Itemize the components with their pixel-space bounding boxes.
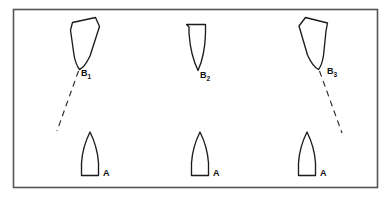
ship-a2: [192, 132, 209, 176]
diagram-canvas: B1 B2 B3 A A A: [0, 0, 389, 199]
ship-b1: [71, 18, 100, 70]
ship-hull-b1: [71, 18, 100, 70]
ship-a3: [299, 132, 316, 176]
dashed-track-b1: [57, 71, 79, 131]
dashed-track-b3: [320, 71, 343, 133]
ship-b2: [187, 25, 206, 71]
ship-label-b3: B3: [327, 66, 338, 78]
ship-encounter-diagram: B1 B2 B3 A A A: [0, 0, 389, 199]
ship-hull-b3: [299, 18, 328, 70]
ship-label-a1: A: [103, 168, 110, 178]
ship-hull-a1: [82, 132, 99, 176]
ship-label-a2: A: [213, 168, 220, 178]
ship-hull-a3: [299, 132, 316, 176]
ship-label-a3: A: [320, 168, 327, 178]
ship-label-b1: B1: [81, 68, 92, 80]
ship-a1: [82, 132, 99, 176]
ship-b3: [299, 18, 328, 70]
ship-label-b1-sub: 1: [88, 73, 92, 80]
ship-label-b3-sub: 3: [334, 71, 338, 78]
ship-hull-b2: [187, 25, 206, 71]
ship-label-b2: B2: [200, 70, 211, 82]
ship-label-b2-sub: 2: [207, 75, 211, 82]
ship-hull-a2: [192, 132, 209, 176]
